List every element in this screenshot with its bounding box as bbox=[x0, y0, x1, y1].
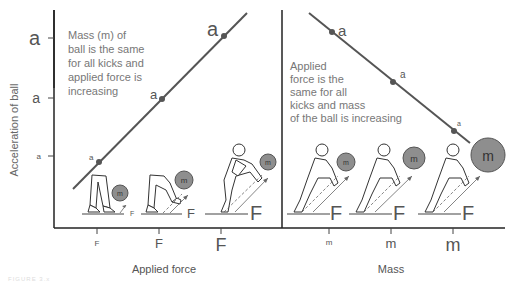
svg-text:m: m bbox=[181, 176, 188, 185]
svg-text:F: F bbox=[187, 206, 195, 221]
svg-text:m: m bbox=[482, 148, 494, 164]
point-label: a bbox=[338, 22, 347, 39]
figure-caption-fragment: FIGURE 3.x bbox=[8, 276, 50, 282]
kick-illustration-large-force: m F bbox=[205, 144, 276, 224]
x-tick-label: F bbox=[95, 239, 100, 248]
svg-text:m: m bbox=[117, 190, 123, 197]
svg-text:Mass (m) of: Mass (m) of bbox=[68, 29, 127, 41]
x-axis-label-applied-force: Applied force bbox=[132, 263, 196, 275]
svg-text:F: F bbox=[130, 210, 134, 217]
x-tick-label: F bbox=[155, 236, 163, 251]
x-tick-label: F bbox=[216, 235, 227, 255]
y-tick-label-medium: a bbox=[32, 90, 40, 106]
y-axis-label: Acceleration of ball bbox=[8, 84, 20, 177]
x-tick-label: m bbox=[446, 235, 461, 255]
svg-text:force is the: force is the bbox=[290, 73, 344, 85]
kick-illustration-small-mass: m F bbox=[287, 144, 355, 224]
data-point bbox=[451, 128, 457, 134]
svg-text:increasing: increasing bbox=[68, 85, 118, 97]
svg-text:F: F bbox=[330, 202, 342, 224]
kick-illustration-large-mass: m F bbox=[418, 138, 505, 224]
svg-text:F: F bbox=[462, 202, 474, 224]
svg-text:Applied: Applied bbox=[290, 60, 327, 72]
svg-text:F: F bbox=[250, 202, 262, 224]
point-label: a bbox=[150, 87, 158, 102]
acceleration-diagram: Acceleration of ball a a a Mass (m) of b… bbox=[0, 0, 519, 285]
svg-text:applied force is: applied force is bbox=[68, 71, 142, 83]
svg-text:m: m bbox=[265, 159, 271, 166]
data-point bbox=[96, 159, 102, 165]
svg-text:m: m bbox=[410, 154, 418, 164]
kick-illustration-medium-force: m F bbox=[141, 171, 195, 221]
data-point bbox=[329, 29, 335, 35]
y-tick-label-large: a bbox=[29, 27, 41, 49]
data-point bbox=[390, 79, 396, 85]
x-tick-label: m bbox=[326, 238, 333, 247]
x-tick-label: m bbox=[386, 236, 397, 251]
point-label: a bbox=[207, 18, 219, 40]
kick-illustration-medium-mass: m F bbox=[349, 144, 425, 224]
data-point bbox=[159, 96, 165, 102]
x-axis-label-mass: Mass bbox=[378, 263, 405, 275]
svg-text:of the ball is increasing: of the ball is increasing bbox=[290, 112, 402, 124]
point-label: a bbox=[400, 69, 406, 80]
y-tick-label-small: a bbox=[37, 152, 42, 161]
data-point bbox=[221, 33, 227, 39]
point-label: a bbox=[89, 153, 94, 162]
svg-text:m: m bbox=[343, 159, 349, 166]
svg-text:same for all: same for all bbox=[290, 86, 347, 98]
kick-illustration-small-force: m F bbox=[82, 175, 134, 217]
svg-text:F: F bbox=[393, 202, 405, 224]
svg-text:ball is the same: ball is the same bbox=[68, 43, 144, 55]
left-panel-note: Mass (m) of ball is the same for all kic… bbox=[68, 29, 144, 97]
svg-text:for all kicks and: for all kicks and bbox=[68, 57, 144, 69]
svg-text:kicks and mass: kicks and mass bbox=[290, 99, 366, 111]
point-label: a bbox=[457, 120, 461, 127]
right-panel-note: Applied force is the same for all kicks … bbox=[290, 60, 402, 124]
